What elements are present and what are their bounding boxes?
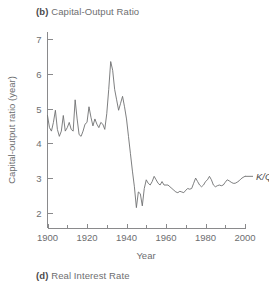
panel-caption: (d) Real Interest Rate [36, 270, 130, 281]
y-tick-label: 3 [36, 173, 41, 184]
x-tick-label: 1940 [116, 232, 137, 243]
series-label-kq: K/Q [256, 171, 269, 182]
x-tick-label: 2000 [234, 232, 255, 243]
y-tick-label: 7 [36, 34, 41, 45]
y-tick-marks [48, 40, 53, 214]
y-tick-label: 4 [36, 138, 41, 149]
y-tick-labels: 234567 [36, 34, 41, 219]
series-line-kq [48, 62, 246, 208]
y-axis-title: Capital-output ratio (year) [6, 76, 17, 184]
figure-panel-b: (b) Capital-Output Ratio 234567 19001920… [0, 0, 269, 288]
x-axis-title: Year [136, 250, 155, 261]
y-axis-group: 234567 [36, 32, 52, 228]
x-tick-label: 1920 [76, 232, 97, 243]
chart-canvas: 234567 190019201940196019802000 K/Q Year… [0, 0, 269, 288]
x-tick-label: 1960 [155, 232, 176, 243]
panel-caption-tag: (d) [36, 270, 48, 281]
y-tick-label: 5 [36, 104, 41, 115]
y-tick-label: 6 [36, 69, 41, 80]
x-tick-label: 1900 [37, 232, 58, 243]
x-tick-labels: 190019201940196019802000 [37, 232, 256, 243]
panel-caption-text: Real Interest Rate [51, 270, 129, 281]
x-tick-label: 1980 [195, 232, 216, 243]
x-axis-group: 190019201940196019802000 [37, 224, 256, 243]
x-tick-marks [49, 224, 246, 229]
y-tick-label: 2 [36, 208, 41, 219]
